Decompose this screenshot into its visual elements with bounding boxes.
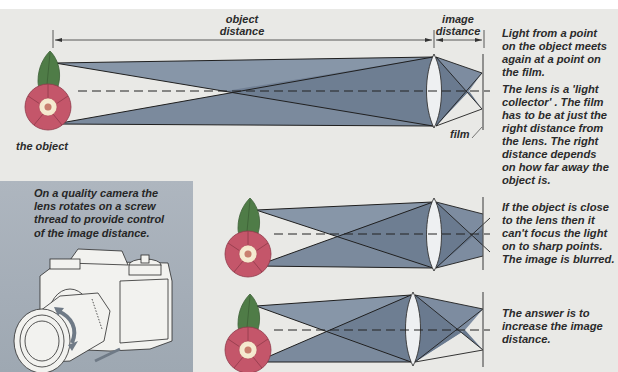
caption-line: The image is blurred. [502, 253, 618, 266]
caption-line: on the object meets [502, 40, 618, 53]
camera-panel: On a quality camera the lens rotates on … [0, 181, 193, 372]
caption-line: has to be at just the [502, 109, 618, 122]
image-distance-label: image distance [432, 13, 484, 37]
label-line: object [192, 13, 292, 25]
caption-line: increase the image [502, 320, 618, 333]
caption-line: distance. [502, 333, 618, 346]
caption-line: The lens is a 'light [502, 83, 618, 96]
object-distance-label: object distance [192, 13, 292, 37]
caption-close-object: If the object is close to the lens then … [502, 201, 618, 266]
caption-line: on how far away the [502, 161, 618, 174]
label-line: image [432, 13, 484, 25]
bottom-diagram [225, 292, 490, 372]
caption-line: right distance from [502, 122, 618, 135]
caption-line: object is. [502, 174, 618, 187]
caption-light-point: Light from a point on the object meets a… [502, 27, 618, 79]
caption-light-collector: The lens is a 'light collector' . The fi… [502, 83, 618, 187]
middle-diagram [225, 197, 490, 277]
label-line: distance [432, 25, 484, 37]
label-line: distance [192, 25, 292, 37]
caption-line: the film. [502, 66, 618, 79]
caption-line: can't focus the light [502, 227, 618, 240]
film-label: film [450, 128, 470, 140]
caption-line: The answer is to [502, 307, 618, 320]
caption-line: collector' . The film [502, 96, 618, 109]
caption-line: the lens. The right [502, 135, 618, 148]
caption-answer: The answer is to increase the image dist… [502, 307, 618, 346]
top-diagram [25, 30, 490, 138]
caption-line: on to sharp points. [502, 240, 618, 253]
caption-line: If the object is close [502, 201, 618, 214]
camera-icon [0, 181, 193, 372]
caption-line: again at a point on [502, 53, 618, 66]
caption-line: Light from a point [502, 27, 618, 40]
caption-line: distance depends [502, 148, 618, 161]
caption-line: to the lens then it [502, 214, 618, 227]
the-object-label: the object [16, 140, 68, 152]
